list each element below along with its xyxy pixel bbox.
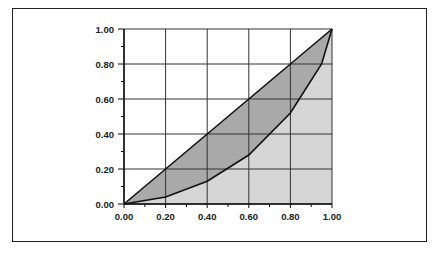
x-tick-label: 0.60 [240, 211, 259, 222]
x-tick-label: 0.80 [281, 211, 300, 222]
y-tick-label: 0.80 [96, 59, 115, 70]
y-tick-label: 0.00 [96, 199, 115, 210]
lorenz-chart: 0.000.200.400.600.801.000.000.200.400.60… [0, 0, 436, 257]
y-tick-label: 0.40 [96, 129, 115, 140]
y-tick-label: 1.00 [96, 24, 115, 35]
x-tick-label: 1.00 [323, 211, 342, 222]
x-tick-label: 0.20 [156, 211, 175, 222]
x-tick-label: 0.40 [198, 211, 217, 222]
x-tick-label: 0.00 [115, 211, 134, 222]
y-tick-label: 0.60 [96, 94, 115, 105]
y-tick-label: 0.20 [96, 164, 115, 175]
